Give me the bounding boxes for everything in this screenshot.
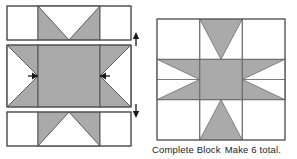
complete-block-diagram — [157, 19, 285, 140]
middle-row-center-plain-square — [38, 45, 100, 107]
bottom-row-left-plain-square — [7, 112, 38, 146]
bottom-row — [7, 112, 131, 146]
complete-block-bottom-point-unit — [200, 100, 243, 140]
bottom-row-right-plain-square — [100, 112, 131, 146]
complete-block-caption: Complete BlockMake 6 total. — [152, 143, 297, 156]
complete-block-corner-top-right — [242, 19, 285, 59]
join-rows-arrow-down — [133, 104, 139, 118]
complete-block-corner-top-left — [157, 19, 200, 59]
caption-quantity-instruction: Make 6 total. — [225, 144, 281, 155]
complete-block-corner-bottom-right — [242, 100, 285, 140]
top-row-right-plain-square — [100, 6, 131, 40]
complete-block-top-point-unit — [200, 19, 243, 59]
figure-canvas — [0, 0, 297, 159]
row-assembly-diagram — [7, 6, 139, 146]
middle-row — [7, 45, 131, 107]
quilt-assembly-figure: Complete BlockMake 6 total. — [0, 0, 297, 159]
complete-block-corner-bottom-left — [157, 100, 200, 140]
top-row-left-plain-square — [7, 6, 38, 40]
join-rows-arrow-up — [133, 32, 139, 46]
complete-block-right-point-unit — [242, 59, 285, 99]
complete-block-center-square — [200, 59, 243, 99]
top-row — [7, 6, 131, 40]
caption-block-label: Complete Block — [152, 144, 221, 155]
complete-block-left-point-unit — [157, 59, 200, 99]
